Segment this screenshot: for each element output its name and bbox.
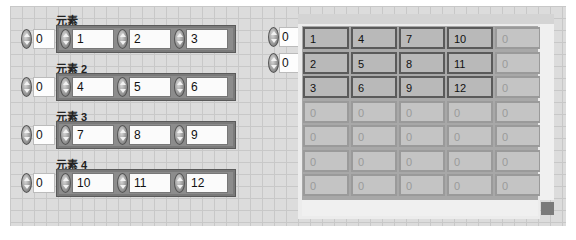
array-cell[interactable]: 0 [447,101,493,123]
numeric-input[interactable]: 1 [72,29,114,49]
numeric-input[interactable]: 5 [129,77,171,97]
numeric-spinner-icon[interactable] [174,125,185,145]
numeric-spinner-icon[interactable] [117,77,128,97]
horizontal-scrollbar[interactable] [302,200,538,216]
array-cell[interactable]: 0 [495,27,541,49]
array-cell[interactable]: 0 [495,76,541,98]
array-cell[interactable]: 0 [351,101,397,123]
row-index-spinner-icon[interactable] [268,27,279,47]
array-cell[interactable]: 10 [447,27,493,49]
numeric-input[interactable]: 7 [72,125,114,145]
array-cell[interactable]: 0 [495,174,541,196]
numeric-spinner-icon[interactable] [174,29,185,49]
array-cell[interactable]: 0 [495,101,541,123]
index-input[interactable]: 0 [33,173,55,193]
numeric-spinner-icon[interactable] [60,29,71,49]
numeric-spinner-icon[interactable] [60,125,71,145]
numeric-spinner-icon[interactable] [174,77,185,97]
index-spinner-icon[interactable] [21,125,32,145]
array-cell[interactable]: 3 [303,76,349,98]
numeric-input[interactable]: 2 [129,29,171,49]
array-cell[interactable]: 6 [351,76,397,98]
numeric-spinner-icon[interactable] [117,29,128,49]
array-cell[interactable]: 0 [303,125,349,147]
array-cell[interactable]: 7 [399,27,445,49]
array-cell[interactable]: 5 [351,52,397,74]
array-cell[interactable]: 11 [447,52,493,74]
numeric-spinner-icon[interactable] [117,125,128,145]
array-cell[interactable]: 0 [399,125,445,147]
array-cell[interactable]: 0 [447,150,493,172]
array-cell[interactable]: 0 [447,174,493,196]
numeric-spinner-icon[interactable] [60,173,71,193]
numeric-spinner-icon[interactable] [117,173,128,193]
array-cell[interactable]: 0 [399,150,445,172]
numeric-input[interactable]: 10 [72,173,114,193]
numeric-spinner-icon[interactable] [174,173,185,193]
numeric-input[interactable]: 12 [186,173,228,193]
array-cell[interactable]: 0 [495,52,541,74]
array-cell[interactable]: 0 [495,150,541,172]
index-spinner-icon[interactable] [21,77,32,97]
numeric-spinner-icon[interactable] [60,77,71,97]
array-cell[interactable]: 4 [351,27,397,49]
index-input[interactable]: 0 [33,77,55,97]
index-input[interactable]: 0 [33,125,55,145]
array-cell[interactable]: 12 [447,76,493,98]
array-cell[interactable]: 0 [303,150,349,172]
array-cell[interactable]: 9 [399,76,445,98]
scroll-corner [541,202,554,215]
array-cell[interactable]: 0 [399,101,445,123]
array-cell[interactable]: 1 [303,27,349,49]
array-cell[interactable]: 2 [303,52,349,74]
numeric-input[interactable]: 8 [129,125,171,145]
array-cell[interactable]: 0 [447,125,493,147]
array-cell[interactable]: 0 [351,174,397,196]
vertical-scrollbar[interactable] [540,24,554,200]
array-cell[interactable]: 0 [351,150,397,172]
index-spinner-icon[interactable] [21,173,32,193]
col-index-spinner-icon[interactable] [268,53,279,73]
numeric-input[interactable]: 9 [186,125,228,145]
index-spinner-icon[interactable] [21,29,32,49]
numeric-input[interactable]: 4 [72,77,114,97]
numeric-input[interactable]: 6 [186,77,228,97]
array-cell[interactable]: 0 [303,174,349,196]
numeric-input[interactable]: 11 [129,173,171,193]
index-input[interactable]: 0 [33,29,55,49]
array-cell[interactable]: 0 [303,101,349,123]
array-cell[interactable]: 8 [399,52,445,74]
array-cell[interactable]: 0 [399,174,445,196]
array-cell[interactable]: 0 [495,125,541,147]
array-cell[interactable]: 0 [351,125,397,147]
numeric-input[interactable]: 3 [186,29,228,49]
